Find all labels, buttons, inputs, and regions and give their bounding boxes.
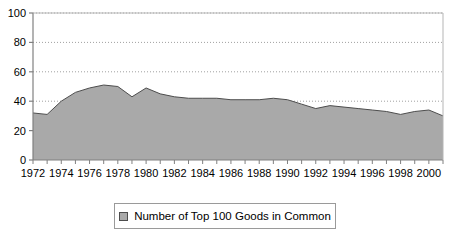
x-tick-label-1972: 1972 (21, 167, 45, 179)
x-tick-label-1990: 1990 (275, 167, 299, 179)
x-tick-label-1980: 1980 (134, 167, 158, 179)
chart-figure: 020406080100 197219741976197819801982198… (0, 0, 450, 239)
legend-entry: Number of Top 100 Goods in Common (119, 210, 331, 222)
area-chart-svg: 020406080100 197219741976197819801982198… (0, 0, 450, 185)
x-tick-label-1974: 1974 (49, 167, 73, 179)
y-tick-label-20: 20 (14, 125, 26, 137)
x-tick-label-1976: 1976 (77, 167, 101, 179)
y-tick-label-100: 100 (8, 7, 26, 19)
x-tick-label-1998: 1998 (388, 167, 412, 179)
legend-label: Number of Top 100 Goods in Common (134, 210, 331, 222)
x-tick-label-1984: 1984 (190, 167, 214, 179)
x-tick-label-1986: 1986 (219, 167, 243, 179)
y-tick-label-0: 0 (20, 154, 26, 166)
chart-legend: Number of Top 100 Goods in Common (114, 203, 336, 229)
x-tick-label-1994: 1994 (332, 167, 356, 179)
y-axis-ticks: 020406080100 (8, 7, 33, 166)
x-tick-label-1982: 1982 (162, 167, 186, 179)
x-tick-label-1992: 1992 (304, 167, 328, 179)
x-tick-label-1978: 1978 (106, 167, 130, 179)
x-tick-label-1988: 1988 (247, 167, 271, 179)
plot-area: 020406080100 197219741976197819801982198… (0, 0, 450, 185)
legend-color-swatch-icon (119, 212, 128, 221)
y-tick-label-60: 60 (14, 66, 26, 78)
x-tick-label-2000: 2000 (417, 167, 441, 179)
x-tick-label-1996: 1996 (360, 167, 384, 179)
y-tick-label-80: 80 (14, 36, 26, 48)
y-tick-label-40: 40 (14, 95, 26, 107)
x-axis-ticks: 1972197419761978198019821984198619881990… (21, 160, 443, 179)
